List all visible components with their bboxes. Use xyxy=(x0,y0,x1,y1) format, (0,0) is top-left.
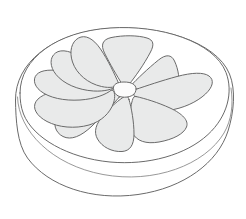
citrus-half-illustration: Halved citrus fruit line drawing xyxy=(0,0,246,219)
core-hub xyxy=(113,82,136,97)
illustration-canvas: Halved citrus fruit line drawing xyxy=(0,0,246,219)
core-group xyxy=(113,82,136,97)
